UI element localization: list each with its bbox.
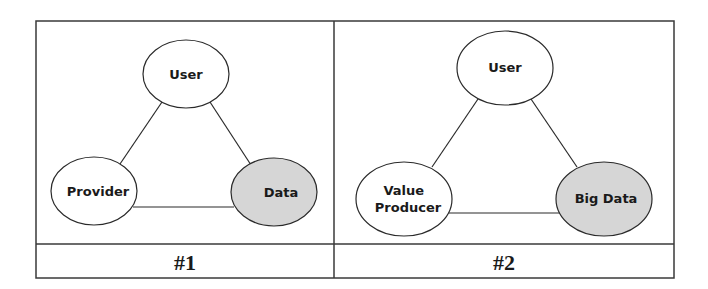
- node-user-label: User: [169, 67, 203, 82]
- node-data: Data: [231, 158, 317, 226]
- node-user: User: [457, 31, 553, 105]
- node-provider: Provider: [51, 157, 137, 225]
- node-provider-label: Provider: [67, 184, 130, 199]
- panel-2-caption: #2: [493, 250, 515, 275]
- table-frame: [36, 21, 674, 278]
- node-big-data-label: Big Data: [575, 191, 638, 206]
- table-outer-border: [36, 21, 674, 278]
- node-data-label: Data: [264, 185, 299, 200]
- edge-user-value-producer: [432, 99, 478, 167]
- comparison-diagram: User Provider Data #1 User Value Produce…: [0, 0, 708, 289]
- edge-user-data: [210, 102, 251, 165]
- node-value-producer-line-1: Value: [383, 183, 424, 198]
- node-value-producer-shape: [356, 162, 452, 236]
- node-big-data: Big Data: [556, 162, 652, 236]
- edge-user-provider: [120, 102, 162, 164]
- panel-1: User Provider Data #1: [51, 40, 317, 275]
- node-user-label: User: [488, 60, 522, 75]
- panel-1-caption: #1: [174, 250, 196, 275]
- panel-2: User Value Producer Big Data #2: [356, 31, 652, 275]
- edges: [432, 99, 577, 213]
- edge-user-big-data: [531, 99, 577, 167]
- node-value-producer-line-2: Producer: [375, 200, 442, 215]
- node-value-producer: Value Producer: [356, 162, 452, 236]
- node-user: User: [143, 40, 229, 108]
